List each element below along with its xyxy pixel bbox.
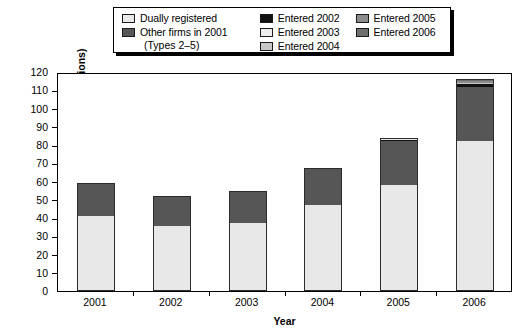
legend-item-entered-2006: Entered 2006: [356, 26, 444, 39]
bar-segment: [304, 205, 342, 291]
y-tick-label: 120: [30, 66, 48, 79]
y-tick-label: 10: [36, 267, 48, 280]
bar-segment: [77, 183, 115, 216]
bar-segment: [380, 141, 418, 185]
y-tick-label: 90: [36, 121, 48, 134]
y-tick-label: 40: [36, 212, 48, 225]
chart-legend: Dually registered Other firms in 2001 (T…: [113, 7, 451, 53]
legend-column-2: Entered 2002 Entered 2003 Entered 2004: [260, 12, 356, 54]
legend-swatch-other-firms-2001: [122, 28, 135, 37]
x-tick-mark: [360, 291, 361, 296]
legend-column-3: Entered 2005 Entered 2006: [356, 12, 444, 40]
legend-label-entered-2006: Entered 2006: [374, 27, 436, 38]
bar-2005: [380, 138, 418, 291]
legend-swatch-entered-2004: [260, 42, 273, 51]
legend-label-entered-2003: Entered 2003: [278, 27, 340, 38]
legend-swatch-entered-2002: [260, 14, 273, 23]
y-tick-label: 0: [42, 285, 48, 298]
legend-item-entered-2005: Entered 2005: [356, 12, 444, 25]
bar-segment: [229, 223, 267, 291]
legend-label-entered-2005: Entered 2005: [374, 13, 436, 24]
legend-note-types: (Types 2–5): [122, 40, 260, 51]
bar-segment: [456, 87, 494, 142]
bar-segment: [153, 196, 191, 226]
bar-segment: [456, 141, 494, 291]
legend-item-entered-2003: Entered 2003: [260, 26, 356, 39]
bar-segment: [153, 226, 191, 291]
legend-swatch-dually-registered: [122, 14, 135, 23]
legend-swatch-entered-2005: [356, 14, 369, 23]
y-tick-label: 30: [36, 230, 48, 243]
bar-2006: [456, 79, 494, 291]
x-axis-title: Year: [57, 315, 512, 327]
y-tick-label: 20: [36, 249, 48, 262]
y-tick-label: 70: [36, 157, 48, 170]
y-tick-label: 60: [36, 176, 48, 189]
y-tick-label: 50: [36, 194, 48, 207]
y-tick-label: 100: [30, 103, 48, 116]
bar-2004: [304, 168, 342, 291]
x-tick-label-2006: 2006: [442, 296, 506, 308]
legend-label-other-firms-2001: Other firms in 2001: [140, 27, 227, 38]
x-tick-label-2001: 2001: [63, 296, 127, 308]
x-tick-label-2004: 2004: [290, 296, 354, 308]
bar-2002: [153, 196, 191, 291]
bars-container: [58, 74, 511, 291]
legend-item-dually-registered: Dually registered: [122, 12, 260, 25]
legend-label-entered-2002: Entered 2002: [278, 13, 340, 24]
x-tick-mark: [436, 291, 437, 296]
x-tick-mark: [285, 291, 286, 296]
x-tick-mark: [209, 291, 210, 296]
bar-segment: [380, 185, 418, 291]
bar-2001: [77, 183, 115, 291]
y-tick-label: 110: [31, 84, 48, 97]
legend-swatch-entered-2003: [260, 28, 273, 37]
x-tick-label-2003: 2003: [215, 296, 279, 308]
legend-columns: Dually registered Other firms in 2001 (T…: [122, 12, 444, 48]
bar-segment: [77, 216, 115, 291]
bar-segment: [229, 191, 267, 224]
legend-item-other-firms-2001: Other firms in 2001: [122, 26, 260, 39]
bar-segment: [304, 169, 342, 206]
legend-swatch-entered-2006: [356, 28, 369, 37]
y-tick-label: 80: [36, 139, 48, 152]
legend-item-entered-2002: Entered 2002: [260, 12, 356, 25]
legend-label-entered-2004: Entered 2004: [278, 41, 340, 52]
legend-column-1: Dually registered Other firms in 2001 (T…: [122, 12, 260, 51]
x-tick-label-2005: 2005: [366, 296, 430, 308]
legend-label-dually-registered: Dually registered: [140, 13, 217, 24]
plot-area: [57, 73, 512, 292]
bar-2003: [229, 191, 267, 291]
legend-item-entered-2004: Entered 2004: [260, 40, 356, 53]
x-tick-label-2002: 2002: [139, 296, 203, 308]
x-tick-mark: [133, 291, 134, 296]
